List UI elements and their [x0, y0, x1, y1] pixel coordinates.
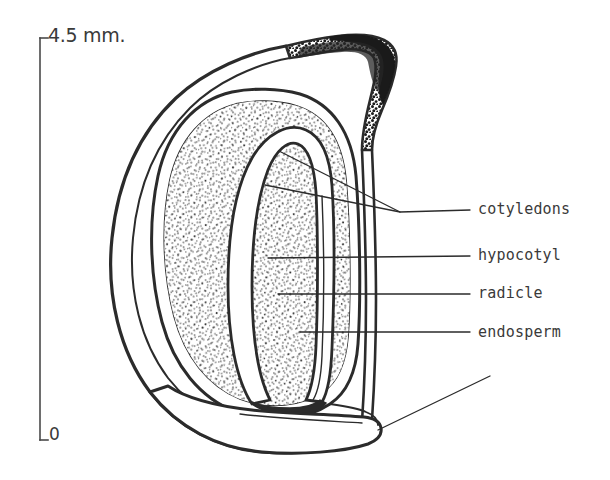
label-endosperm: endosperm	[478, 325, 561, 340]
figure-canvas: 4.5 mm. 0 cotyledons hypocotyl radicle e…	[0, 0, 610, 480]
label-radicle: radicle	[478, 286, 543, 301]
scale-bar	[40, 38, 48, 440]
scale-bar-top-label: 4.5 mm.	[48, 26, 125, 45]
seed-section-drawing	[0, 0, 610, 480]
scale-bar-zero-label: 0	[49, 426, 60, 443]
label-cotyledons: cotyledons	[478, 202, 570, 217]
label-hypocotyl: hypocotyl	[478, 248, 561, 263]
beak-leader	[378, 376, 490, 430]
